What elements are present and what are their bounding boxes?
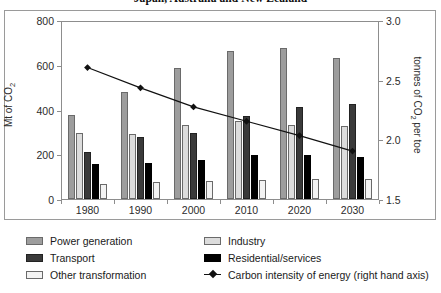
carbon-intensity-line-series <box>61 21 379 200</box>
plot-area: 0200400600800 1.52.02.53.0 1980199020002… <box>61 21 379 200</box>
legend-item[interactable]: Residential/services <box>204 249 429 266</box>
line-diamond-marker-icon <box>204 270 221 279</box>
y-axis-left-tick-label: 400 <box>36 105 54 117</box>
swatch-power-icon <box>26 237 43 245</box>
y-axis-right-tick-mark <box>379 81 383 82</box>
x-axis-tick-label: 1990 <box>129 204 152 216</box>
y-axis-right-tick-label: 3.0 <box>386 15 401 27</box>
y-axis-left-tick-label: 800 <box>36 15 54 27</box>
swatch-industry-icon <box>204 237 221 245</box>
swatch-residential-icon <box>204 254 221 262</box>
legend-column-right: IndustryResidential/servicesCarbon inten… <box>204 232 429 283</box>
y-axis-right-title-text: tonnes of CO <box>412 56 423 115</box>
x-axis-tick-mark <box>379 200 380 204</box>
y-axis-right-tick-mark <box>379 21 383 22</box>
y-axis-left-tick-label: 0 <box>48 194 54 206</box>
y-axis-left-title-subscript: 2 <box>8 83 17 87</box>
x-axis-tick-mark <box>220 200 221 204</box>
chart-title: Japan, Australia and New Zealand <box>0 0 441 4</box>
legend-item[interactable]: Power generation <box>26 232 146 249</box>
carbon-intensity-marker <box>243 118 250 125</box>
swatch-transport-icon <box>26 254 43 262</box>
legend-item-label: Other transformation <box>50 269 146 281</box>
carbon-intensity-line <box>88 68 353 152</box>
x-axis-tick-mark <box>326 200 327 204</box>
y-axis-right-title-suffix: per toe <box>412 120 423 154</box>
y-axis-right-tick-label: 2.0 <box>386 134 401 146</box>
y-axis-right-tick-label: 1.5 <box>386 194 401 206</box>
y-axis-left-tick-label: 600 <box>36 60 54 72</box>
legend-item-label: Carbon intensity of energy (right hand a… <box>228 269 429 281</box>
legend-item-label: Residential/services <box>228 252 321 264</box>
legend-item-label: Industry <box>228 235 265 247</box>
carbon-intensity-marker <box>349 148 356 155</box>
legend-item[interactable]: Other transformation <box>26 266 146 283</box>
carbon-intensity-marker <box>137 84 144 91</box>
x-axis-tick-label: 2030 <box>341 204 364 216</box>
legend-item[interactable]: Transport <box>26 249 146 266</box>
y-axis-right-title: tonnes of CO2 per toe <box>409 56 423 153</box>
x-axis-tick-mark <box>273 200 274 204</box>
legend-item[interactable]: Industry <box>204 232 429 249</box>
x-axis-tick-mark <box>114 200 115 204</box>
x-axis-tick-mark <box>167 200 168 204</box>
x-axis-tick-mark <box>61 200 62 204</box>
y-axis-right-tick-mark <box>379 140 383 141</box>
carbon-intensity-marker <box>84 64 91 71</box>
x-axis-tick-label: 2010 <box>235 204 258 216</box>
legend-item-label: Transport <box>50 252 95 264</box>
y-axis-left-title: Mt of CO2 <box>3 83 17 127</box>
y-axis-right-tick-label: 2.5 <box>386 75 401 87</box>
x-axis-tick-label: 1980 <box>76 204 99 216</box>
swatch-other-icon <box>26 271 43 279</box>
x-axis-tick-label: 2020 <box>288 204 311 216</box>
chart-root: Japan, Australia and New Zealand Mt of C… <box>0 0 441 293</box>
legend-item[interactable]: Carbon intensity of energy (right hand a… <box>204 266 429 283</box>
y-axis-left-tick-label: 200 <box>36 149 54 161</box>
x-axis-tick-label: 2000 <box>182 204 205 216</box>
carbon-intensity-marker <box>296 132 303 139</box>
carbon-intensity-marker <box>190 104 197 111</box>
legend-item-label: Power generation <box>50 235 132 247</box>
y-axis-left-title-text: Mt of CO <box>3 87 14 127</box>
legend-column-left: Power generationTransportOther transform… <box>26 232 146 283</box>
